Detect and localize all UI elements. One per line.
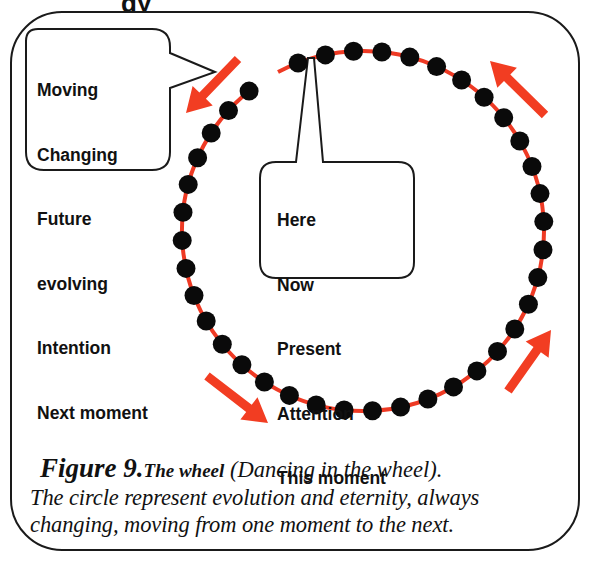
bead bbox=[418, 390, 437, 409]
present-line: Attention bbox=[277, 404, 386, 426]
bead bbox=[177, 259, 196, 278]
future-line: evolving bbox=[37, 274, 148, 296]
bead bbox=[219, 101, 238, 120]
bead bbox=[316, 45, 335, 64]
future-bubble-text: Moving Changing Future evolving Intentio… bbox=[37, 37, 148, 467]
future-line: Intention bbox=[37, 338, 148, 360]
figure-title: The wheel bbox=[144, 460, 225, 481]
bead bbox=[528, 268, 547, 287]
bead bbox=[531, 184, 550, 203]
bead bbox=[475, 88, 494, 107]
figure-caption: Figure 9.The wheel (Dancing in the wheel… bbox=[30, 455, 575, 538]
caption-line-3: changing, moving from one moment to the … bbox=[30, 511, 575, 538]
bead bbox=[427, 57, 446, 76]
bead bbox=[494, 108, 513, 127]
bead bbox=[534, 212, 553, 231]
bead bbox=[255, 373, 274, 392]
future-line: Future bbox=[37, 209, 148, 231]
future-line: Changing bbox=[37, 145, 148, 167]
bead bbox=[232, 355, 251, 374]
bead bbox=[179, 175, 198, 194]
bead bbox=[185, 286, 204, 305]
bead bbox=[488, 342, 507, 361]
bead bbox=[534, 240, 553, 259]
bead bbox=[505, 320, 524, 339]
bead bbox=[519, 295, 538, 314]
bead bbox=[197, 312, 216, 331]
bead bbox=[202, 124, 221, 143]
caption-line-2: The circle represent evolution and etern… bbox=[30, 484, 575, 511]
bead bbox=[173, 231, 192, 250]
bottom-right-arrow-icon bbox=[504, 330, 551, 394]
bead bbox=[188, 148, 207, 167]
bead bbox=[452, 71, 471, 90]
present-line: Present bbox=[277, 339, 386, 361]
figure-9-wheel-diagram: gy Moving Changing Future evolving Inten… bbox=[0, 0, 593, 566]
caption-line-1: Figure 9.The wheel (Dancing in the wheel… bbox=[30, 455, 575, 484]
bead bbox=[523, 157, 542, 176]
bead bbox=[372, 43, 391, 62]
present-line: Now bbox=[277, 275, 386, 297]
present-line: Here bbox=[277, 210, 386, 232]
bead bbox=[467, 361, 486, 380]
bead bbox=[213, 335, 232, 354]
bead bbox=[391, 398, 410, 417]
bead bbox=[444, 377, 463, 396]
figure-subtitle: (Dancing in the wheel). bbox=[224, 457, 442, 482]
bead bbox=[174, 203, 193, 222]
bead bbox=[240, 82, 259, 101]
bead bbox=[510, 132, 529, 151]
future-line: Next moment bbox=[37, 403, 148, 425]
figure-label: Figure 9. bbox=[40, 453, 144, 483]
future-line: Moving bbox=[37, 80, 148, 102]
bead bbox=[344, 42, 363, 61]
bead bbox=[289, 54, 308, 73]
bead bbox=[400, 48, 419, 67]
